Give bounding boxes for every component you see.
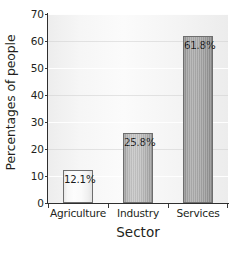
gridline bbox=[48, 14, 228, 15]
y-axis-title: Percentages of people bbox=[0, 0, 22, 205]
y-axis-tick-labels: 70 60 50 40 30 20 10 0 bbox=[22, 0, 44, 210]
y-tick-label: 40 bbox=[22, 90, 44, 100]
plot-area: 12.1% 25.8% 61.8% bbox=[48, 14, 228, 203]
bar-chart: Percentages of people 70 60 50 40 30 20 … bbox=[0, 0, 240, 253]
y-tick-label: 30 bbox=[22, 117, 44, 127]
y-tick-label: 60 bbox=[22, 36, 44, 46]
x-axis-title: Sector bbox=[48, 224, 228, 240]
bar-agriculture[interactable]: 12.1% bbox=[63, 170, 93, 203]
x-tick-label-services: Services bbox=[158, 207, 238, 219]
y-tick-label: 50 bbox=[22, 63, 44, 73]
bar-value-label: 12.1% bbox=[64, 174, 92, 185]
y-axis-title-label: Percentages of people bbox=[4, 35, 19, 171]
bar-industry[interactable]: 25.8% bbox=[123, 133, 153, 203]
y-tick-label: 10 bbox=[22, 171, 44, 181]
bar-services[interactable]: 61.8% bbox=[183, 36, 213, 203]
y-axis-line bbox=[47, 13, 48, 204]
bar-value-label: 25.8% bbox=[124, 137, 152, 148]
y-tick-label: 70 bbox=[22, 9, 44, 19]
y-tick-label: 20 bbox=[22, 144, 44, 154]
x-axis-tick-labels: Agriculture Industry Services bbox=[40, 207, 236, 223]
bar-value-label: 61.8% bbox=[184, 40, 212, 51]
